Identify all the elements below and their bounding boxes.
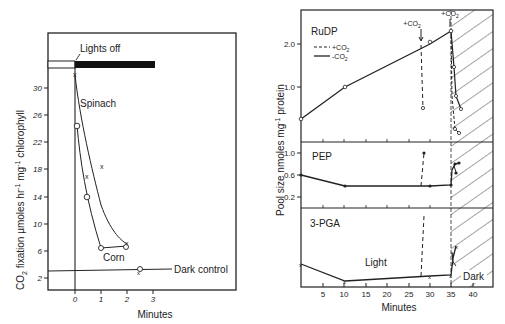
svg-text:-CO2: -CO2 — [332, 53, 348, 62]
svg-text:6: 6 — [38, 247, 43, 256]
panel-title-pep: PEP — [312, 151, 332, 162]
svg-text:x: x — [100, 163, 104, 170]
left-y-label: CO2 fixation µmoles hr-1 mg-1 chlorophyl… — [14, 110, 28, 290]
svg-text:x: x — [449, 273, 452, 279]
svg-text:25: 25 — [405, 290, 414, 299]
pga-plus-co2-28 — [421, 216, 424, 276]
light-bar — [48, 61, 75, 68]
left-x-label: Minutes — [137, 309, 172, 320]
svg-text:18: 18 — [33, 165, 42, 174]
svg-text:30: 30 — [33, 84, 42, 93]
left-y-ticks: 30 26 22 18 14 10 6 2 — [32, 84, 48, 283]
svg-text:x: x — [343, 279, 346, 285]
svg-text:2: 2 — [37, 274, 43, 283]
figure: Lights off 30 26 22 18 14 10 6 2 — [0, 0, 505, 324]
svg-text:35: 35 — [447, 290, 456, 299]
svg-text:x: x — [428, 274, 431, 280]
svg-text:14: 14 — [33, 193, 42, 202]
svg-text:30: 30 — [426, 290, 435, 299]
panel-title-3pga: 3-PGA — [310, 218, 340, 229]
light-label: Light — [365, 257, 387, 268]
svg-text:2.0: 2.0 — [284, 40, 296, 49]
svg-text:22: 22 — [32, 138, 42, 147]
pep-minus-co2 — [301, 163, 459, 186]
left-chart: Lights off 30 26 22 18 14 10 6 2 — [14, 33, 236, 320]
svg-text:15: 15 — [362, 290, 371, 299]
svg-text:3: 3 — [151, 295, 156, 304]
dark-label: Dark — [463, 271, 485, 282]
svg-text:0: 0 — [73, 295, 78, 304]
right-x-label: Minutes — [381, 302, 416, 313]
svg-text:1: 1 — [99, 295, 103, 304]
svg-text:x: x — [299, 262, 302, 268]
right-y-label: Pool size nmoles mg-1 protein — [274, 84, 286, 216]
dark-control-line — [48, 269, 172, 271]
rudp-plus-co2-28 — [421, 45, 423, 109]
corn-label: Corn — [103, 252, 125, 263]
svg-text:x: x — [455, 244, 458, 250]
svg-text:10: 10 — [340, 290, 349, 299]
dark-bar — [75, 61, 155, 68]
lights-off-arrow — [76, 54, 80, 60]
svg-text:20: 20 — [383, 290, 392, 299]
svg-text:+CO2: +CO2 — [332, 44, 350, 53]
svg-text:5: 5 — [321, 290, 326, 299]
right-chart: RuDP PEP 3-PGA +CO2 -CO2 +CO2 +CO2 2.0 1… — [274, 10, 493, 313]
svg-text:x: x — [73, 71, 77, 78]
dark-control-label: Dark control — [174, 264, 228, 275]
svg-text:x: x — [85, 173, 89, 180]
svg-text:10: 10 — [33, 220, 42, 229]
corn-curve — [77, 125, 127, 248]
svg-text:x: x — [451, 251, 454, 257]
pep-plus-co2-28 — [421, 153, 424, 186]
spinach-label: Spinach — [80, 98, 116, 109]
svg-text:2: 2 — [124, 295, 130, 304]
rudp-minus-co2 — [301, 31, 451, 119]
legend: +CO2 -CO2 — [314, 44, 350, 62]
lights-off-label: Lights off — [80, 43, 121, 54]
svg-text:40: 40 — [469, 290, 478, 299]
left-x-ticks: 0 1 2 3 — [73, 290, 156, 304]
panel-title-rudp: RuDP — [311, 26, 338, 37]
co2-marker-28: +CO2 — [403, 20, 421, 29]
svg-text:x: x — [137, 270, 140, 276]
svg-text:26: 26 — [32, 111, 42, 120]
